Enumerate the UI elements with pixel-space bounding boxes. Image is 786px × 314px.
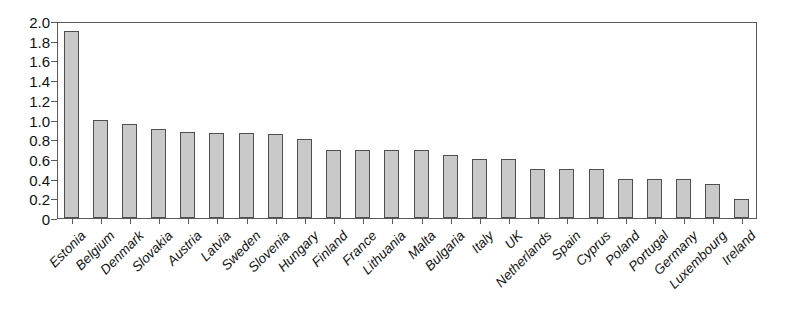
bar [647,179,662,218]
x-axis-tick-mark [655,219,656,224]
bar [355,150,370,218]
bar [268,134,283,218]
plot-area [57,22,757,219]
bar [122,124,137,218]
bar [93,120,108,219]
x-axis-tick-mark [217,219,218,224]
y-axis-tick-label: 1.0 [29,112,50,129]
y-axis-tick-label: 0.6 [29,151,50,168]
x-axis-tick-mark [159,219,160,224]
bar [734,199,749,218]
y-axis-tick-label: 1.4 [29,73,50,90]
bar [676,179,691,218]
x-axis-tick-mark [101,219,102,224]
bar [472,159,487,218]
x-axis-tick-mark [567,219,568,224]
bar [209,133,224,218]
bar [414,150,429,218]
bar [530,169,545,218]
x-axis-tick-mark [72,219,73,224]
bar [384,150,399,218]
x-axis-tick-mark [742,219,743,224]
x-axis-tick-mark [305,219,306,224]
bar [501,159,516,218]
y-axis-tick-label: 1.2 [29,92,50,109]
x-axis-tick-mark [713,219,714,224]
y-axis-tick-mark [51,219,57,220]
bar [64,31,79,218]
bar [589,169,604,218]
bar [151,129,166,218]
x-axis-tick-mark [130,219,131,224]
x-axis-tick-label: Italy [468,228,496,256]
x-axis-tick-mark [684,219,685,224]
x-axis-tick-mark [422,219,423,224]
x-axis-tick-mark [509,219,510,224]
bar-chart: 2.01.81.61.41.21.00.80.60.40.20 EstoniaB… [0,0,786,314]
x-axis-tick-mark [276,219,277,224]
x-axis-tick-mark [538,219,539,224]
y-axis: 2.01.81.61.41.21.00.80.60.40.20 [0,0,50,314]
bar [180,132,195,218]
bar [559,169,574,218]
x-axis-tick-mark [451,219,452,224]
y-axis-tick-label: 2.0 [29,14,50,31]
y-axis-tick-label: 0.2 [29,191,50,208]
x-axis-tick-mark [188,219,189,224]
x-axis-tick-mark [480,219,481,224]
bar [443,155,458,218]
x-axis-tick-mark [626,219,627,224]
y-axis-tick-label: 0.8 [29,132,50,149]
bar [297,139,312,218]
x-axis-tick-mark [363,219,364,224]
bar [618,179,633,218]
y-axis-tick-label: 1.6 [29,53,50,70]
bar [326,150,341,218]
y-axis-tick-label: 0 [42,211,50,228]
x-axis-tick-mark [334,219,335,224]
bar [239,133,254,218]
x-axis-tick-mark [392,219,393,224]
x-axis-tick-mark [247,219,248,224]
y-axis-tick-label: 1.8 [29,33,50,50]
y-axis-tick-label: 0.4 [29,171,50,188]
x-axis-tick-mark [597,219,598,224]
bar [705,184,720,218]
